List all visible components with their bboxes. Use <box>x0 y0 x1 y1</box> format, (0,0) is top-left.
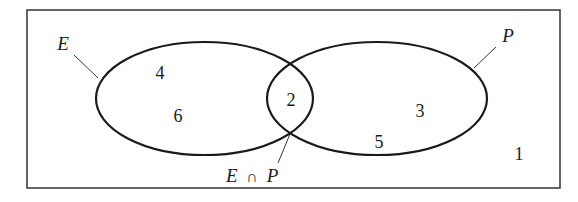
set-p-value-3: 3 <box>416 101 425 121</box>
set-e-leader-line <box>74 55 98 78</box>
set-e-value-6: 6 <box>174 106 183 126</box>
intersection-symbol: ∩ <box>246 168 258 185</box>
set-e-value-4: 4 <box>156 63 165 83</box>
intersection-label-p: P <box>266 165 279 186</box>
venn-diagram: E P E ∩ P 4 6 2 3 5 1 <box>0 0 578 202</box>
set-p-leader-line <box>474 47 496 68</box>
set-e-ellipse <box>96 42 313 155</box>
set-e-label: E <box>56 33 69 54</box>
set-p-value-5: 5 <box>375 132 384 152</box>
set-p-label: P <box>501 25 514 46</box>
outside-value-1: 1 <box>515 144 524 164</box>
intersection-label-e: E <box>225 165 238 186</box>
intersection-label: E ∩ P <box>225 165 279 186</box>
intersection-value-2: 2 <box>287 90 296 110</box>
